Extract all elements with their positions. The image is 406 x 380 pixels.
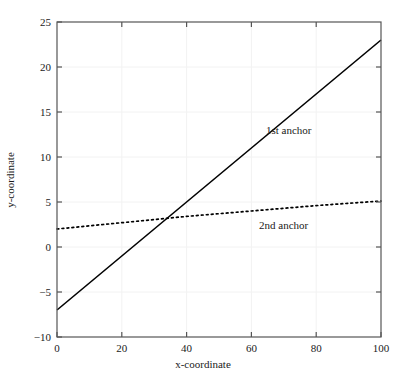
ytick-label-0: 0 — [27, 241, 51, 253]
xtick-label-80: 80 — [311, 342, 322, 354]
xtick-label-40: 40 — [181, 342, 192, 354]
xtick-label-100: 100 — [373, 342, 390, 354]
plot-background — [57, 22, 381, 337]
xtick-label-60: 60 — [246, 342, 257, 354]
line-chart-figure: 25 20 15 10 5 0 −5 −10 0 20 40 60 80 100… — [0, 0, 406, 380]
plot-canvas — [0, 0, 406, 380]
ytick-label-minus-10: −10 — [19, 331, 51, 343]
ytick-label-15: 15 — [27, 106, 51, 118]
xtick-label-0: 0 — [54, 342, 60, 354]
series-label-2nd-anchor: 2nd anchor — [259, 219, 308, 231]
xtick-label-20: 20 — [116, 342, 127, 354]
ytick-label-5: 5 — [27, 196, 51, 208]
y-axis-title: y-coordinate — [4, 152, 16, 208]
series-label-1st-anchor: 1st anchor — [266, 124, 312, 136]
ytick-label-10: 10 — [27, 151, 51, 163]
ytick-label-25: 25 — [27, 16, 51, 28]
ytick-label-minus-5: −5 — [23, 286, 51, 298]
x-axis-title: x-coordinate — [175, 358, 231, 370]
ytick-label-20: 20 — [27, 61, 51, 73]
